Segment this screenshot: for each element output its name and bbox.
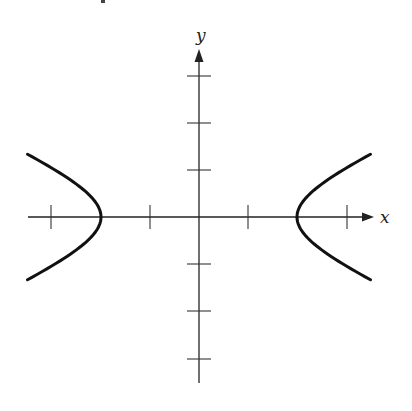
x-axis-label: x (380, 207, 390, 227)
cropped-glyph-fragment (101, 0, 105, 3)
hyperbola-diagram: x y (0, 0, 412, 411)
y-axis-arrowhead-icon (195, 49, 204, 62)
x-axis-arrowhead-icon (362, 213, 374, 222)
y-axis-label: y (195, 25, 206, 45)
